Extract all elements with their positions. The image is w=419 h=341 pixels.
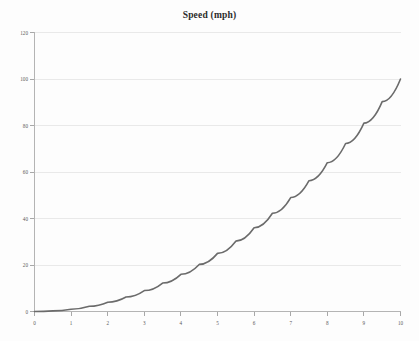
x-tick-label-0: 0 (33, 320, 36, 326)
speed-data-curve (35, 79, 401, 312)
x-tick-label-3: 3 (143, 320, 146, 326)
x-tick-label-9: 9 (363, 320, 366, 326)
x-tick-label-6: 6 (253, 320, 256, 326)
y-tick-label-40: 40 (23, 216, 29, 222)
x-tick-label-8: 8 (326, 320, 329, 326)
y-tick-label-0: 0 (25, 309, 28, 315)
x-tick-label-7: 7 (289, 320, 292, 326)
x-tick-label-5: 5 (216, 320, 219, 326)
y-tick-label-100: 100 (20, 76, 28, 82)
x-tick-label-1: 1 (70, 320, 73, 326)
y-axis-ticks (30, 33, 34, 312)
x-axis-ticks (35, 312, 401, 316)
chart-screenshot: Speed (mph) 120 100 80 (0, 0, 419, 341)
chart-plot-area: 120 100 80 60 40 20 0 0 1 2 3 (0, 0, 419, 341)
y-tick-label-120: 120 (20, 30, 28, 36)
y-tick-label-60: 60 (23, 169, 29, 175)
x-axis-tick-labels: 0 1 2 3 4 5 6 7 8 9 10 (33, 320, 403, 326)
y-tick-label-20: 20 (23, 262, 29, 268)
x-tick-label-2: 2 (106, 320, 109, 326)
x-tick-label-4: 4 (180, 320, 183, 326)
gridlines (34, 33, 401, 266)
y-axis-tick-labels: 120 100 80 60 40 20 0 (20, 30, 28, 315)
x-tick-label-10: 10 (398, 320, 404, 326)
y-tick-label-80: 80 (23, 123, 29, 129)
